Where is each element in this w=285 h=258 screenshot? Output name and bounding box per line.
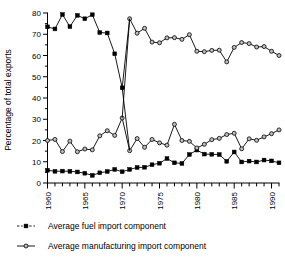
data-point-square: [240, 160, 244, 164]
data-point-circle: [60, 150, 64, 154]
data-point-circle: [255, 45, 259, 49]
data-point-circle: [210, 48, 214, 52]
data-point-circle: [158, 141, 162, 145]
y-tick-label: 50: [32, 73, 41, 82]
data-point-square: [277, 161, 281, 165]
data-point-circle: [225, 133, 229, 137]
data-point-square: [90, 13, 94, 17]
data-point-circle: [135, 137, 139, 141]
data-point-circle: [24, 244, 28, 248]
data-point-square: [232, 150, 236, 154]
series-line: [48, 118, 280, 152]
data-point-circle: [255, 138, 259, 142]
data-point-circle: [270, 49, 274, 53]
x-tick-label: 1965: [81, 191, 90, 209]
y-axis-tick-labels: 01020304050607080: [32, 9, 41, 188]
series-3: [46, 13, 124, 90]
data-point-circle: [247, 137, 251, 141]
data-point-circle: [277, 54, 281, 58]
data-point-circle: [195, 146, 199, 150]
data-point-square: [83, 17, 87, 21]
chart-legend: Average fuel import componentAverage man…: [0, 212, 285, 258]
x-axis-tick-labels: 1960196519701975198019851990: [44, 191, 277, 209]
data-point-square: [98, 31, 102, 35]
data-point-square: [143, 165, 147, 169]
x-tick-label: 1975: [156, 191, 165, 209]
data-point-square: [202, 152, 206, 156]
data-point-square: [247, 159, 251, 163]
chart-figure: 01020304050607080 1960196519701975198019…: [0, 0, 285, 258]
data-point-circle: [165, 36, 169, 40]
data-point-square: [61, 13, 65, 17]
y-tick-label: 20: [32, 137, 41, 146]
data-point-circle: [240, 147, 244, 151]
series-line: [48, 14, 123, 87]
data-point-circle: [187, 139, 191, 143]
data-point-circle: [90, 148, 94, 152]
data-point-circle: [232, 131, 236, 135]
data-point-circle: [217, 136, 221, 140]
series-1: [46, 148, 281, 177]
data-point-circle: [105, 129, 109, 133]
data-point-square: [98, 171, 102, 175]
data-point-circle: [217, 48, 221, 52]
data-point-circle: [247, 42, 251, 46]
data-point-circle: [68, 139, 72, 143]
series-band-transition: [122, 19, 129, 151]
data-point-circle: [225, 60, 229, 64]
data-point-square: [255, 160, 259, 164]
data-point-square: [83, 171, 87, 175]
data-point-square: [113, 52, 117, 56]
x-tick-label: 1985: [230, 191, 239, 209]
y-tick-label: 40: [32, 94, 41, 103]
data-point-square: [165, 157, 169, 161]
x-tick-label: 1980: [193, 191, 202, 209]
x-tick-label: 1970: [118, 191, 127, 209]
x-tick-label: 1960: [44, 191, 53, 209]
series-2: [46, 116, 282, 154]
data-point-square: [113, 168, 117, 172]
series-4: [128, 17, 281, 64]
data-point-square: [68, 169, 72, 173]
data-point-circle: [83, 147, 87, 151]
data-point-circle: [202, 142, 206, 146]
data-point-circle: [53, 137, 57, 141]
data-point-square: [270, 159, 274, 163]
data-point-circle: [180, 139, 184, 143]
data-point-square: [225, 159, 229, 163]
legend-item-2: Average manufacturing import component: [17, 241, 207, 251]
y-tick-label: 80: [32, 9, 41, 18]
data-point-circle: [75, 150, 79, 154]
data-point-circle: [240, 41, 244, 45]
data-point-square: [262, 158, 266, 162]
data-point-square: [68, 25, 72, 29]
data-point-circle: [135, 31, 139, 35]
data-series: [46, 13, 282, 178]
data-point-square: [158, 161, 162, 165]
data-point-circle: [158, 41, 162, 45]
y-tick-label: 30: [32, 115, 41, 124]
axes: [48, 13, 280, 183]
y-tick-label: 60: [32, 52, 41, 61]
data-point-square: [105, 170, 109, 174]
data-point-circle: [150, 137, 154, 141]
data-point-circle: [143, 145, 147, 149]
data-point-square: [128, 168, 132, 172]
y-tick-label: 10: [32, 158, 41, 167]
data-point-square: [217, 153, 221, 157]
data-point-square: [120, 170, 124, 174]
data-point-square: [46, 168, 50, 172]
data-point-circle: [46, 139, 50, 143]
series-line: [48, 150, 280, 175]
y-axis-title: Percentage of total exports: [3, 49, 13, 151]
data-point-square: [90, 173, 94, 177]
data-point-square: [75, 13, 79, 17]
data-point-circle: [113, 133, 117, 137]
data-point-square: [210, 152, 214, 156]
data-point-square: [53, 27, 57, 31]
legend-label: Average fuel import component: [48, 221, 167, 231]
data-point-square: [173, 161, 177, 165]
y-tick-label: 70: [32, 30, 41, 39]
data-point-circle: [150, 40, 154, 44]
legend-label: Average manufacturing import component: [48, 241, 207, 251]
